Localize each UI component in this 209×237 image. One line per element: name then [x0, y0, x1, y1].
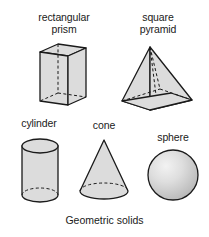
cone-shape [80, 140, 128, 199]
cylinder-body [22, 146, 58, 202]
label-cylinder: cylinder [6, 118, 72, 130]
prism-right-face [68, 48, 86, 105]
rectangular-prism-shape [40, 44, 86, 105]
cone-body [80, 140, 128, 199]
geometric-solids-figure: rectangular prism square pyramid cylinde… [0, 0, 209, 237]
cylinder-shape [22, 139, 58, 202]
sphere-shape [148, 150, 198, 200]
square-pyramid-shape [122, 47, 192, 110]
cylinder-top-face [22, 139, 58, 153]
prism-front-face [40, 52, 68, 105]
figure-caption: Geometric solids [0, 214, 209, 226]
label-square-pyramid: square pyramid [116, 12, 200, 35]
label-cone: cone [76, 120, 132, 132]
label-rectangular-prism: rectangular prism [22, 12, 106, 35]
label-sphere: sphere [142, 132, 204, 144]
